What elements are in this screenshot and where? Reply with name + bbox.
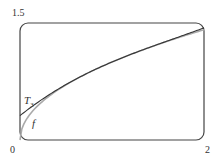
y-tick-top: 1.5	[12, 7, 25, 18]
origin-tick: 0	[10, 144, 15, 155]
t3-label: T3	[24, 94, 34, 109]
f-label: f	[32, 117, 37, 129]
plot-frame	[20, 23, 204, 140]
chart-canvas: 1.5 0 2 T3 f	[0, 0, 215, 159]
t3-curve	[20, 28, 204, 116]
x-tick-right: 2	[205, 144, 210, 155]
f-curve	[20, 30, 204, 140]
